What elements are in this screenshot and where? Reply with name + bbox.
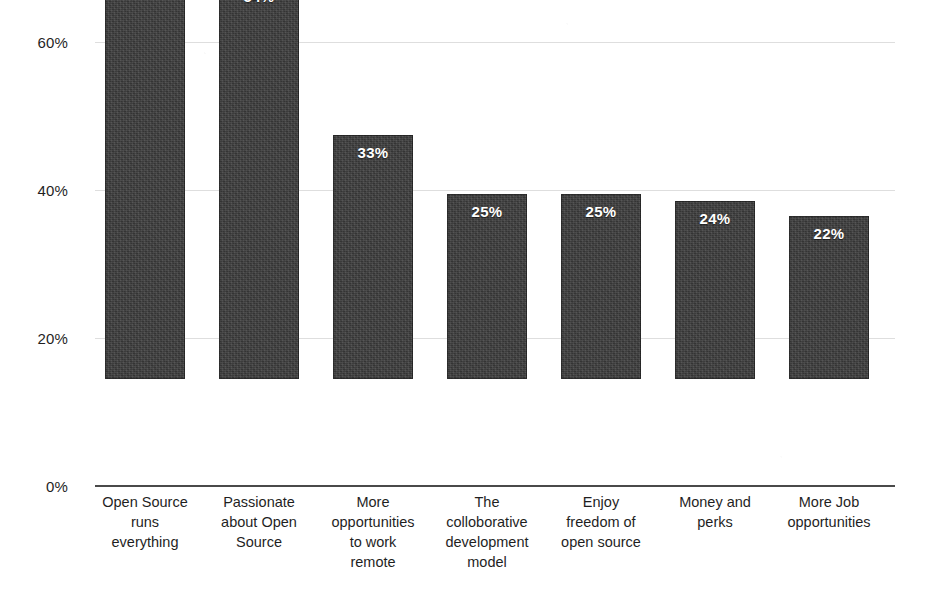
x-label-2: Moreopportunitiesto workremote bbox=[317, 492, 429, 572]
bar-value-label: 25% bbox=[561, 203, 641, 220]
x-axis-labels: Open Sourcerunseverything Passionateabou… bbox=[95, 492, 895, 587]
x-label-line: Money and bbox=[659, 492, 771, 512]
x-label-6: More Jobopportunities bbox=[773, 492, 885, 532]
bar-value-label: 24% bbox=[675, 210, 755, 227]
y-tick-20: 20% bbox=[8, 330, 68, 347]
y-tick-40: 40% bbox=[8, 182, 68, 199]
x-label-line: everything bbox=[89, 532, 201, 552]
x-label-0: Open Sourcerunseverything bbox=[89, 492, 201, 552]
x-label-line: Enjoy bbox=[545, 492, 657, 512]
bar-value-label: 54% bbox=[219, 0, 299, 5]
bar-enjoy-freedom-of-open-source[interactable]: 25% bbox=[561, 194, 641, 379]
y-tick-60: 60% bbox=[8, 34, 68, 51]
x-label-line: opportunities bbox=[317, 512, 429, 532]
x-label-4: Enjoyfreedom ofopen source bbox=[545, 492, 657, 552]
bar-value-label: 33% bbox=[333, 144, 413, 161]
x-label-line: development bbox=[431, 532, 543, 552]
x-label-line: The bbox=[431, 492, 543, 512]
bar-chart: 60% 40% 20% 0% 58% 54% 33% 25% 25% bbox=[0, 0, 930, 593]
x-label-line: open source bbox=[545, 532, 657, 552]
x-label-line: Source bbox=[203, 532, 315, 552]
x-label-line: model bbox=[431, 552, 543, 572]
x-label-line: about Open bbox=[203, 512, 315, 532]
y-tick-0: 0% bbox=[8, 478, 68, 495]
bar-value-label: 25% bbox=[447, 203, 527, 220]
x-label-line: More bbox=[317, 492, 429, 512]
x-label-line: colloborative bbox=[431, 512, 543, 532]
x-label-1: Passionateabout OpenSource bbox=[203, 492, 315, 552]
bar-open-source-runs-everything[interactable]: 58% bbox=[105, 0, 185, 379]
bar-more-job-opportunities[interactable]: 22% bbox=[789, 216, 869, 379]
x-label-line: More Job bbox=[773, 492, 885, 512]
x-label-5: Money andperks bbox=[659, 492, 771, 532]
bar-passionate-about-open-source[interactable]: 54% bbox=[219, 0, 299, 379]
bar-collaborative-development-model[interactable]: 25% bbox=[447, 194, 527, 379]
bar-more-opportunities-to-work-remote[interactable]: 33% bbox=[333, 135, 413, 379]
x-label-3: Thecolloborativedevelopmentmodel bbox=[431, 492, 543, 572]
x-label-line: Passionate bbox=[203, 492, 315, 512]
x-label-line: opportunities bbox=[773, 512, 885, 532]
x-label-line: runs bbox=[89, 512, 201, 532]
x-label-line: Open Source bbox=[89, 492, 201, 512]
bar-money-and-perks[interactable]: 24% bbox=[675, 201, 755, 379]
x-label-line: remote bbox=[317, 552, 429, 572]
bars-layer: 58% 54% 33% 25% 25% 24% bbox=[95, 0, 895, 486]
x-label-line: to work bbox=[317, 532, 429, 552]
x-label-line: freedom of bbox=[545, 512, 657, 532]
x-label-line: perks bbox=[659, 512, 771, 532]
bar-value-label: 22% bbox=[789, 225, 869, 242]
